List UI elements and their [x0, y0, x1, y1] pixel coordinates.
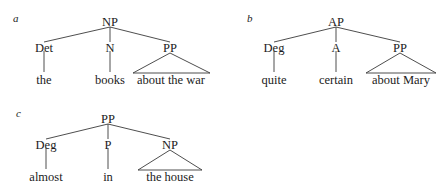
branch-root-child1: [46, 124, 108, 139]
leaf-b-certain: certain: [319, 74, 353, 87]
node-a-pp: PP: [163, 42, 177, 55]
node-c-np: NP: [162, 139, 178, 152]
node-b-a: A: [331, 42, 340, 55]
branch-root-child1: [274, 27, 336, 42]
triangle-child3: [138, 150, 202, 170]
leaf-a-about-the-war: about the war: [137, 74, 205, 87]
leaf-b-quite: quite: [262, 74, 287, 87]
branch-root-child3: [336, 27, 400, 42]
leaf-a-the: the: [36, 74, 51, 87]
triangle-child3: [133, 53, 210, 73]
node-b-pp: PP: [393, 42, 407, 55]
branch-root-child3: [110, 27, 170, 42]
branch-root-child3: [108, 124, 170, 139]
leaf-c-in: in: [103, 171, 113, 184]
node-root-c: PP: [101, 113, 115, 126]
leaf-c-the-house: the house: [146, 171, 194, 184]
node-b-deg: Deg: [264, 42, 285, 55]
syntax-tree-a: a NP Det N PP the books about the war: [0, 0, 222, 95]
branch-root-child1: [44, 27, 110, 42]
node-a-n: N: [105, 42, 114, 55]
syntax-tree-c: c PP Deg P NP almost in the house: [0, 95, 222, 190]
syntax-tree-b: b AP Deg A PP quite certain about Mary: [222, 0, 444, 95]
leaf-a-books: books: [95, 74, 125, 87]
node-c-deg: Deg: [36, 139, 57, 152]
leaf-b-about-mary: about Mary: [372, 74, 430, 87]
node-root-b: AP: [328, 16, 344, 29]
node-c-p: P: [105, 139, 112, 152]
triangle-child3: [366, 53, 436, 73]
leaf-c-almost: almost: [29, 171, 62, 184]
node-a-det: Det: [35, 42, 53, 55]
node-root-a: NP: [102, 16, 118, 29]
